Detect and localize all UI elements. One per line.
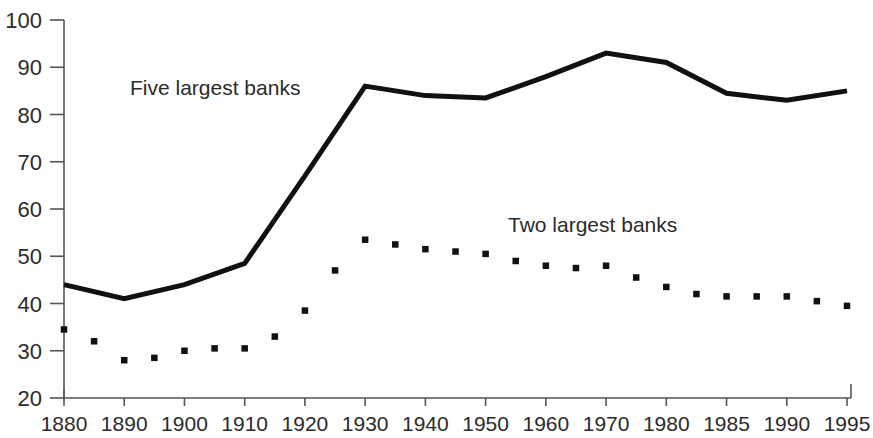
series-annotations: Five largest banksTwo largest banks [130,76,677,236]
dotted-marker [91,338,98,345]
x-tick-label: 1980 [643,412,690,435]
x-tick-label: 1985 [703,412,750,435]
dotted-marker [422,246,429,253]
y-tick-label: 40 [18,292,42,317]
dotted-marker [603,262,610,269]
y-tick-label: 30 [18,339,42,364]
y-tick-label: 80 [18,103,42,128]
dotted-marker [573,265,580,272]
dotted-marker [543,262,550,269]
y-tick-label: 20 [18,386,42,411]
dotted-marker [723,293,730,300]
dotted-marker [211,345,218,352]
x-tick-label: 1940 [402,412,449,435]
dotted-marker [693,291,700,298]
line-chart: 2030405060708090100 18801890190019101920… [0,0,873,438]
x-tick-label: 1930 [342,412,389,435]
x-tick-label: 1900 [161,412,208,435]
dotted-marker [814,298,821,305]
x-axis-tick-labels: 1880189019001910192019301940195019601970… [41,412,871,435]
dotted-marker [272,333,279,340]
dotted-marker [753,293,760,300]
dotted-marker [362,236,369,243]
x-tick-label: 1960 [522,412,569,435]
dotted-marker [482,251,489,258]
dotted-marker [61,326,68,333]
dotted-marker [633,274,640,281]
series-two-largest-banks [61,236,851,363]
x-tick-label: 1995 [824,412,871,435]
x-tick-label: 1990 [763,412,810,435]
y-tick-label: 70 [18,150,42,175]
y-tick-label: 60 [18,197,42,222]
series-label-five-largest-banks: Five largest banks [130,76,300,99]
x-tick-label: 1910 [221,412,268,435]
series-label-two-largest-banks: Two largest banks [508,213,677,236]
dotted-marker [151,355,158,362]
y-tick-label: 90 [18,55,42,80]
dotted-marker [332,267,339,274]
dotted-marker [302,307,309,314]
dotted-marker [181,348,188,355]
dotted-marker [512,258,519,265]
x-tick-label: 1970 [583,412,630,435]
chart-container: 2030405060708090100 18801890190019101920… [0,0,873,438]
dotted-marker [784,293,791,300]
y-tick-label: 100 [5,8,42,33]
dotted-marker [121,357,128,364]
x-tick-label: 1950 [462,412,509,435]
dotted-marker [452,248,459,255]
y-tick-label: 50 [18,244,42,269]
x-tick-label: 1920 [282,412,329,435]
dotted-marker [241,345,248,352]
dotted-marker [663,284,670,291]
dotted-marker [392,241,399,248]
y-axis-tick-labels: 2030405060708090100 [5,8,42,411]
x-tick-label: 1880 [41,412,88,435]
x-tick-label: 1890 [101,412,148,435]
dotted-marker [844,303,851,310]
